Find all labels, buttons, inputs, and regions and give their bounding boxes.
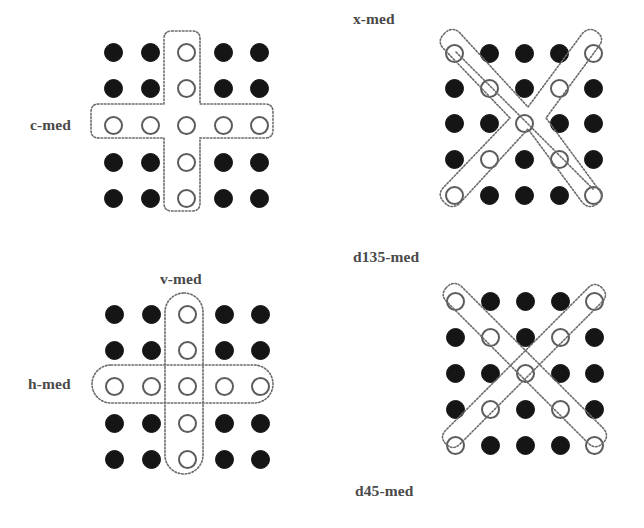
dot-r1c4: [584, 79, 603, 98]
dot-r2c0: [104, 116, 123, 135]
panel-c-med: c-med: [0, 0, 322, 264]
dot-r3c0: [446, 400, 465, 419]
dot-r4c4: [250, 189, 269, 208]
dot-r4c1: [481, 436, 500, 455]
dot-r0c2: [177, 43, 196, 62]
dot-r0c3: [551, 292, 570, 311]
dot-r3c0: [104, 153, 123, 172]
dot-r0c4: [585, 292, 604, 311]
dot-r2c4: [584, 114, 603, 133]
dot-r3c3: [550, 150, 569, 169]
dot-r4c2: [177, 189, 196, 208]
dot-r4c2: [515, 186, 534, 205]
dot-r4c3: [215, 450, 234, 469]
dot-r2c2: [516, 364, 535, 383]
dot-r0c2: [178, 305, 197, 324]
dot-r4c2: [178, 450, 197, 469]
dot-r1c2: [178, 341, 197, 360]
dot-r3c1: [480, 150, 499, 169]
median-filter-masks-figure: c-med: [0, 0, 644, 528]
dot-r1c2: [177, 79, 196, 98]
dot-r3c3: [215, 414, 234, 433]
label-x-med: x-med: [353, 10, 395, 28]
dot-r1c1: [141, 79, 160, 98]
dot-r3c4: [251, 414, 270, 433]
dot-r0c1: [142, 305, 161, 324]
dot-r2c1: [481, 364, 500, 383]
dot-r1c3: [551, 328, 570, 347]
dot-r4c1: [141, 189, 160, 208]
dot-r3c3: [551, 400, 570, 419]
dot-r1c0: [446, 328, 465, 347]
panel-hv-med: v-med h-med: [0, 264, 322, 528]
dot-r0c0: [446, 292, 465, 311]
dot-r4c4: [251, 450, 270, 469]
dot-r4c3: [214, 189, 233, 208]
dot-r4c0: [105, 450, 124, 469]
dot-r1c0: [445, 79, 464, 98]
dot-r4c2: [516, 436, 535, 455]
panel-d-med: d135-med d45-med: [322, 264, 644, 528]
dot-r4c4: [584, 186, 603, 205]
dot-r3c2: [177, 153, 196, 172]
dot-r1c1: [480, 79, 499, 98]
dot-r1c2: [516, 328, 535, 347]
label-v-med: v-med: [160, 270, 202, 288]
dot-r2c4: [250, 116, 269, 135]
dot-r3c4: [585, 400, 604, 419]
dot-r1c3: [550, 79, 569, 98]
dot-r1c4: [251, 341, 270, 360]
dot-r3c3: [214, 153, 233, 172]
dot-r3c4: [250, 153, 269, 172]
dot-r2c0: [446, 364, 465, 383]
dot-r2c1: [142, 377, 161, 396]
dot-r0c1: [481, 292, 500, 311]
dot-r3c2: [515, 150, 534, 169]
dot-r3c2: [178, 414, 197, 433]
dot-r3c1: [142, 414, 161, 433]
dot-r4c0: [446, 436, 465, 455]
dot-r0c4: [584, 44, 603, 63]
dot-r2c4: [251, 377, 270, 396]
dot-r0c0: [105, 305, 124, 324]
dot-r0c2: [516, 292, 535, 311]
outline-vertical-v-med: [0, 264, 322, 528]
dot-r0c4: [250, 43, 269, 62]
dot-r2c0: [445, 114, 464, 133]
dot-r3c0: [445, 150, 464, 169]
dot-r1c0: [104, 79, 123, 98]
dot-r3c1: [141, 153, 160, 172]
dot-r4c3: [550, 186, 569, 205]
dot-r4c1: [142, 450, 161, 469]
dot-r3c1: [481, 400, 500, 419]
dot-r0c0: [104, 43, 123, 62]
dot-r2c3: [215, 377, 234, 396]
label-d135-med: d135-med: [353, 248, 419, 266]
dot-r0c3: [550, 44, 569, 63]
dot-r1c3: [214, 79, 233, 98]
dot-r1c1: [481, 328, 500, 347]
dot-r2c2: [178, 377, 197, 396]
dot-r2c3: [214, 116, 233, 135]
dot-r1c1: [142, 341, 161, 360]
dot-r1c4: [585, 328, 604, 347]
dot-r4c0: [104, 189, 123, 208]
label-c-med: c-med: [30, 116, 71, 134]
dot-r2c1: [480, 114, 499, 133]
dot-r0c3: [215, 305, 234, 324]
dot-r4c4: [585, 436, 604, 455]
dot-r1c4: [250, 79, 269, 98]
dot-r3c0: [105, 414, 124, 433]
dot-r4c3: [551, 436, 570, 455]
dot-r2c3: [551, 364, 570, 383]
dot-r2c1: [141, 116, 160, 135]
dot-r0c1: [141, 43, 160, 62]
label-d45-med: d45-med: [355, 482, 413, 500]
dot-r2c2: [515, 114, 534, 133]
dot-r2c3: [550, 114, 569, 133]
dot-r4c1: [480, 186, 499, 205]
dot-r0c3: [214, 43, 233, 62]
dot-r3c2: [516, 400, 535, 419]
dot-r1c3: [215, 341, 234, 360]
dot-r0c1: [480, 44, 499, 63]
